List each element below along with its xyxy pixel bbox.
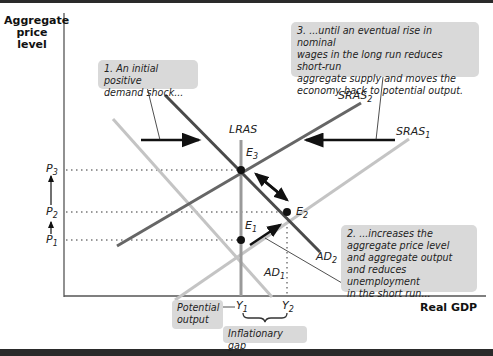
e3-to-e2-arrow-head (258, 176, 287, 200)
inflationary-gap-label: Inflationary gap (223, 326, 307, 343)
p1-label: P1 (46, 234, 58, 248)
ad2-label: AD2 (316, 251, 337, 265)
y-axis-title: Aggregate price level (4, 15, 60, 51)
e2-point (283, 208, 291, 216)
e3-point (237, 166, 245, 174)
annotation-demand-shock: 1. An initial positive demand shock... (98, 60, 198, 89)
ad1-label: AD1 (264, 267, 285, 281)
e3-label: E3 (246, 147, 258, 161)
y1-label: Y1 (236, 300, 248, 314)
sras1-label: SRAS1 (396, 126, 430, 140)
e1-point (237, 236, 245, 244)
potential-output-label: Potential output (172, 300, 223, 329)
y2-label: Y2 (282, 300, 294, 314)
x-axis-title: Real GDP (420, 302, 477, 314)
inflationary-gap-brace (243, 313, 287, 322)
e2-label: E2 (296, 206, 308, 220)
p3-label: P3 (46, 163, 58, 177)
e1-label: E1 (245, 220, 257, 234)
annotation-long-run-adjustment: 3. ...until an eventual rise in nominal … (291, 22, 479, 77)
p2-label: P2 (46, 206, 58, 220)
annotation-short-run-effect: 2. ...increases the aggregate price leve… (341, 225, 477, 292)
lras-label: LRAS (229, 124, 257, 135)
